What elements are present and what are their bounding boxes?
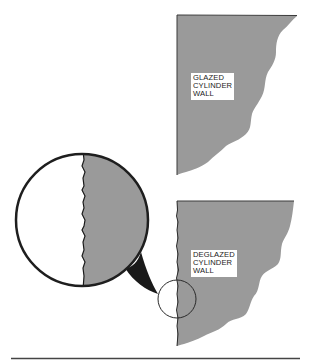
deglazed-label-line-3: WALL: [193, 267, 235, 275]
deglazed-wall-label: DEGLAZED CYLINDER WALL: [191, 250, 237, 277]
glazed-label-line-3: WALL: [193, 90, 232, 98]
cylinder-wall-diagram: [0, 0, 312, 364]
glazed-wall-label: GLAZED CYLINDER WALL: [191, 73, 234, 100]
